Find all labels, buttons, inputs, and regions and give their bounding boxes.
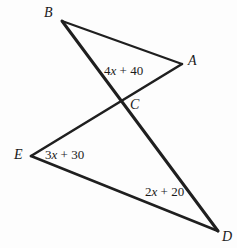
angle-e-constant: 30 — [71, 147, 84, 162]
angle-c-constant: 40 — [130, 63, 143, 78]
vertex-label-d: D — [222, 230, 232, 244]
vertex-label-c: C — [130, 98, 139, 112]
angle-expression-at-d: 2x + 20 — [145, 185, 184, 198]
segment-b-a — [62, 21, 182, 64]
angle-expression-at-e: 3x + 30 — [45, 148, 84, 161]
angle-d-variable: x — [152, 184, 158, 199]
angle-e-variable: x — [52, 147, 58, 162]
angle-e-operator: + — [61, 147, 68, 162]
angle-c-variable: x — [111, 63, 117, 78]
vertex-label-b: B — [44, 6, 53, 20]
vertex-label-e: E — [14, 148, 23, 162]
geometry-canvas — [0, 0, 237, 248]
angle-d-constant: 20 — [171, 184, 184, 199]
angle-expression-at-c: 4x + 40 — [104, 64, 143, 77]
vertex-label-a: A — [188, 54, 197, 68]
angle-c-operator: + — [120, 63, 127, 78]
geometry-figure: B A C E D 4x + 40 3x + 30 2x + 20 — [0, 0, 237, 248]
angle-d-operator: + — [161, 184, 168, 199]
